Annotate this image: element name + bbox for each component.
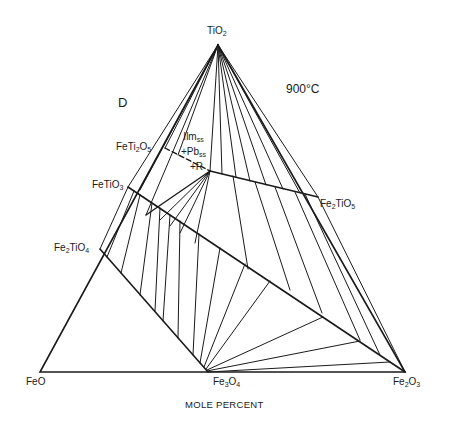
pseudobrookite-join — [210, 171, 318, 197]
phase-field-line-r: +R — [181, 161, 206, 173]
compound-label-fe3o4: Fe3O4 — [213, 377, 240, 388]
vertex-label-fe2o3: Fe2O3 — [393, 377, 420, 388]
compound-label-fe2tio4: Fe2TiO4 — [54, 243, 89, 254]
ulvospinel-magnetite-join — [100, 249, 208, 372]
panel-label: D — [118, 96, 127, 109]
three-phase-fan-lines — [160, 171, 210, 243]
ternary-phase-diagram — [0, 0, 449, 429]
phase-field-label: Ilmss +Pbss +R — [181, 131, 206, 173]
vertex-label-feo: FeO — [26, 377, 45, 387]
vertex-label-tio2: TiO2 — [207, 26, 227, 37]
ilmenite-hematite-join — [128, 187, 405, 372]
temperature-label: 900°C — [286, 83, 320, 95]
axis-caption: MOLE PERCENT — [185, 400, 264, 410]
phase-field-line-ilm: Ilmss — [181, 131, 206, 146]
ilmenite-spinel-tie-lines — [100, 187, 390, 372]
compound-label-fetio3: FeTiO3 — [92, 180, 123, 191]
phase-field-line-pb: +Pbss — [181, 146, 206, 161]
compound-label-fe2tio5: Fe2TiO5 — [320, 199, 355, 210]
compound-label-feti2o5: FeTi2O5 — [116, 142, 151, 153]
